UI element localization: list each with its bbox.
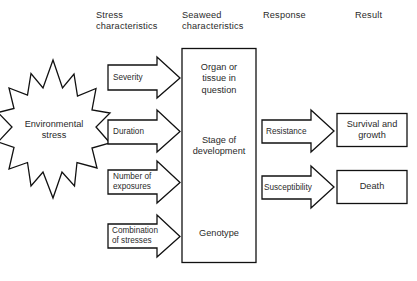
survival-and-growth-label: Survival and growth <box>338 114 406 146</box>
environmental-stress-label: Environmental stress <box>9 113 99 147</box>
column-header-result: Result <box>355 10 415 21</box>
duration-arrow-label: Duration <box>113 120 159 144</box>
organ-or-tissue-label: Organ or tissue in question <box>184 58 254 100</box>
severity-arrow-label: Severity <box>113 65 159 90</box>
column-header-seaweed-characteristics: Seaweed characteristics <box>182 10 268 32</box>
number-of-exposures-arrow-label: Number of exposures <box>113 170 161 194</box>
column-header-stress-characteristics: Stress characteristics <box>96 10 182 32</box>
resistance-arrow-label: Resistance <box>266 120 314 143</box>
death-label: Death <box>338 171 406 203</box>
stage-of-development-label: Stage of development <box>182 133 256 159</box>
diagram-canvas: Stress characteristics Seaweed character… <box>0 0 417 281</box>
susceptibility-arrow-label: Susceptibility <box>264 176 314 199</box>
combination-of-stresses-arrow-label: Combination of stresses <box>112 224 162 248</box>
column-header-response: Response <box>263 10 333 21</box>
genotype-label: Genotype <box>184 226 254 242</box>
